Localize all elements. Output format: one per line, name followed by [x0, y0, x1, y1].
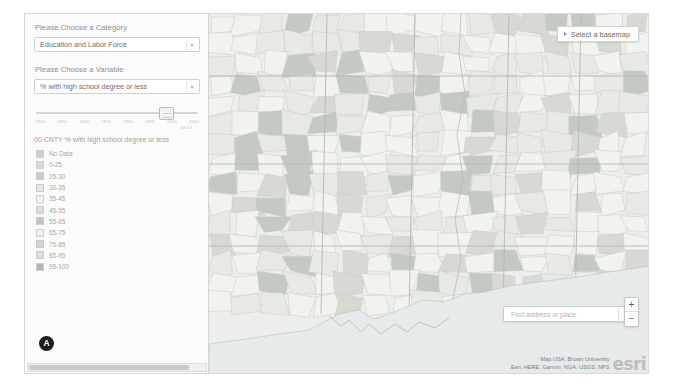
scrollbar-thumb[interactable] [29, 365, 189, 370]
select-basemap-label: Select a basemap [571, 30, 630, 39]
legend-item-label: 45-55 [49, 206, 65, 215]
county-polygon[interactable] [334, 94, 364, 115]
legend-item[interactable]: 55-65 [34, 216, 200, 227]
county-polygon[interactable] [288, 74, 314, 91]
zoom-in-button[interactable]: + [625, 298, 638, 312]
legend-item[interactable]: No Data [34, 148, 200, 159]
county-polygon[interactable] [286, 195, 317, 212]
legend-list: No Data0-2525-3030-3535-4545-5555-6565-7… [34, 148, 200, 272]
sidebar-controls: Please Choose a Category Education and L… [34, 23, 200, 272]
legend-item[interactable]: 35-45 [34, 193, 200, 204]
category-select[interactable]: Education and Labor Force ▼ [34, 37, 200, 52]
legend-item[interactable]: 75-85 [34, 238, 200, 249]
year-tick-2000: 2000 [167, 119, 177, 125]
attribution-text: Map USA, Brown University Esri, HERE, Ga… [511, 355, 610, 373]
legend-swatch [36, 161, 44, 169]
county-polygon[interactable] [437, 191, 470, 218]
legend-item[interactable]: 85-95 [34, 250, 200, 261]
search-input[interactable]: Find address or place [504, 310, 618, 319]
year-tick-1970: 1970 [101, 119, 111, 125]
legend-item[interactable]: 25-30 [34, 171, 200, 182]
legend-swatch [36, 229, 44, 237]
control-sidebar: Please Choose a Category Education and L… [25, 14, 209, 374]
legend-item-label: 25-30 [49, 172, 65, 181]
legend-item-label: 85-95 [49, 251, 65, 260]
county-polygon[interactable] [236, 210, 259, 237]
county-polygon[interactable] [416, 132, 439, 151]
zoom-controls[interactable]: + − [624, 297, 639, 327]
legend-item-label: 55-65 [49, 217, 65, 226]
variable-label: Please Choose a Variable [35, 65, 200, 75]
county-polygon[interactable] [312, 151, 339, 175]
map-attribution: Map USA, Brown University Esri, HERE, Ga… [511, 355, 646, 373]
legend-swatch [36, 240, 44, 248]
county-polygon[interactable] [574, 232, 599, 255]
search-widget[interactable]: Find address or place [503, 306, 637, 322]
county-polygon[interactable] [543, 190, 571, 215]
application-window: Please Choose a Category Education and L… [0, 0, 673, 387]
county-polygon[interactable] [594, 72, 625, 92]
county-polygon[interactable] [209, 56, 236, 78]
legend-item-label: 65-75 [49, 228, 65, 237]
legend-swatch [36, 217, 44, 225]
county-polygon[interactable] [491, 174, 517, 194]
map-viewport[interactable]: Select a basemap Find address or place +… [209, 14, 649, 374]
legend-item-label: 75-85 [49, 240, 65, 249]
county-polygon[interactable] [258, 111, 285, 139]
chevron-down-icon[interactable]: ▼ [186, 81, 197, 92]
county-polygon[interactable] [492, 75, 517, 95]
legend-item-label: 30-35 [49, 183, 65, 192]
year-slider[interactable]: 19401950196019701980199020002010 08-12 [34, 107, 200, 131]
legend-item[interactable]: 95-100 [34, 261, 200, 272]
county-polygon[interactable] [463, 57, 490, 72]
year-tick-1980: 1980 [123, 119, 133, 125]
year-tick-1990: 1990 [145, 119, 155, 125]
map-marker-a-badge[interactable]: A [39, 336, 54, 351]
county-polygon[interactable] [468, 14, 495, 35]
legend-swatch [36, 206, 44, 214]
variable-select-value: % with high school degree or less [40, 82, 147, 91]
county-polygon[interactable] [543, 74, 571, 97]
county-polygon[interactable] [256, 30, 285, 53]
county-polygon[interactable] [235, 153, 261, 171]
sidebar-horizontal-scrollbar[interactable] [27, 363, 207, 372]
esri-logo: esri [613, 356, 646, 373]
year-tick-1950: 1950 [57, 119, 67, 125]
legend-swatch [36, 195, 44, 203]
legend-item-label: 35-45 [49, 194, 65, 203]
county-polygon[interactable] [626, 191, 649, 217]
county-polygon[interactable] [336, 75, 369, 94]
county-polygon[interactable] [209, 133, 235, 155]
legend-swatch [36, 251, 44, 259]
legend-item[interactable]: 30-35 [34, 182, 200, 193]
variable-select[interactable]: % with high school degree or less ▼ [34, 79, 200, 94]
legend-swatch [36, 150, 44, 158]
category-select-value: Education and Labor Force [40, 40, 127, 49]
legend-item-label: 95-100 [49, 262, 69, 271]
year-slider-sublabel: 08-12 [181, 125, 192, 131]
legend-swatch [36, 263, 44, 271]
legend-item[interactable]: 65-75 [34, 227, 200, 238]
attribution-line-1: Map USA, Brown University [511, 355, 610, 363]
attribution-line-2: Esri, HERE, Garmin, NGA, USGS, NPS [511, 363, 610, 371]
legend-item[interactable]: 45-55 [34, 204, 200, 215]
county-polygon[interactable] [568, 158, 601, 175]
chevron-down-icon[interactable]: ▼ [186, 39, 197, 50]
county-polygon[interactable] [518, 112, 550, 132]
legend-swatch [36, 172, 44, 180]
legend-item-label: No Data [49, 149, 72, 158]
app-frame: Please Choose a Category Education and L… [24, 13, 649, 374]
zoom-out-button[interactable]: − [625, 312, 638, 326]
county-polygon[interactable] [337, 172, 367, 195]
legend-title: 00 CNTY % with high school degree or les… [34, 135, 200, 145]
county-polygon[interactable] [624, 113, 649, 135]
county-polygon[interactable] [313, 32, 343, 56]
county-polygon[interactable] [619, 91, 649, 113]
county-polygon[interactable] [545, 218, 574, 232]
county-polygon[interactable] [363, 295, 389, 317]
county-polygon[interactable] [514, 237, 548, 256]
legend-item-label: 0-25 [49, 160, 62, 169]
legend-item[interactable]: 0-25 [34, 159, 200, 170]
year-tick-1960: 1960 [79, 119, 89, 125]
select-basemap-button[interactable]: Select a basemap [557, 26, 639, 42]
